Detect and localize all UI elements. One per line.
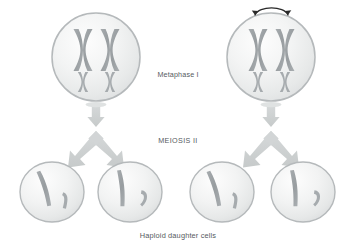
cell-membrane xyxy=(190,162,254,222)
cell-membrane xyxy=(98,162,162,222)
cell-membrane xyxy=(271,162,335,222)
cell-membrane xyxy=(20,162,84,222)
label-metaphase-i: Metaphase I xyxy=(157,70,198,79)
parent-cell-left xyxy=(52,13,140,101)
label-haploid-daughter-cells: Haploid daughter cells xyxy=(140,231,217,240)
daughter-cell-2 xyxy=(98,162,162,222)
daughter-cell-4 xyxy=(271,162,335,222)
diagram-canvas: Metaphase I MEIOSIS II Haploid daughter … xyxy=(0,0,357,247)
cell-membrane xyxy=(227,13,315,101)
cell-membrane xyxy=(52,13,140,101)
daughter-cell-1 xyxy=(20,162,84,222)
daughter-cell-3 xyxy=(190,162,254,222)
meiosis-diagram: Metaphase I MEIOSIS II Haploid daughter … xyxy=(0,0,357,247)
label-meiosis-ii: MEIOSIS II xyxy=(158,136,197,145)
